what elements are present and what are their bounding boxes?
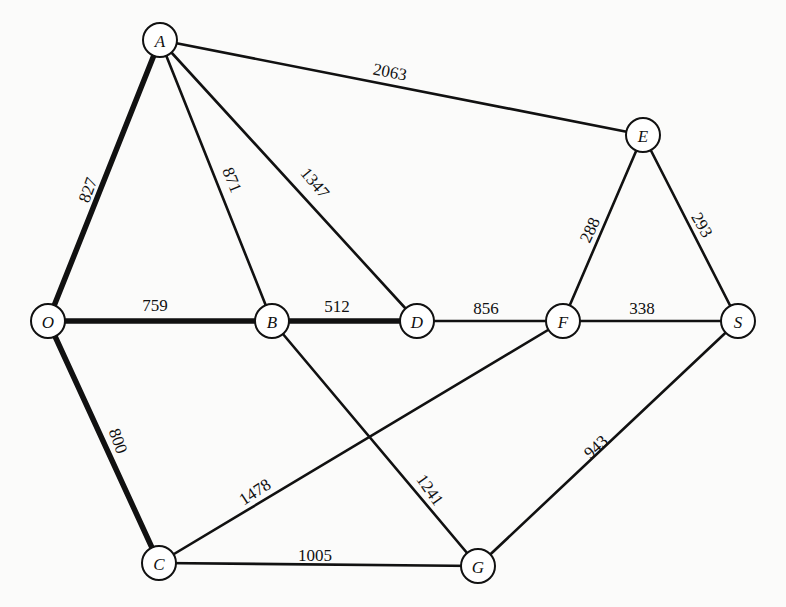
node-b: B	[255, 304, 289, 338]
edge-e-f	[563, 135, 643, 321]
node-label: B	[267, 313, 278, 332]
node-label: F	[557, 313, 569, 332]
edge-weight-label: 856	[473, 299, 499, 318]
node-label: D	[410, 313, 424, 332]
node-e: E	[626, 118, 660, 152]
node-a: A	[143, 23, 177, 57]
edge-weight-label: 293	[687, 209, 716, 241]
node-label: A	[154, 32, 166, 51]
node-label: S	[734, 313, 743, 332]
node-label: G	[472, 558, 484, 577]
node-g: G	[461, 549, 495, 583]
edge-b-g	[272, 321, 478, 566]
edge-o-c	[48, 321, 159, 563]
edge-o-a	[48, 40, 160, 321]
edge-a-b	[160, 40, 272, 321]
edge-weight-label: 943	[580, 431, 612, 462]
edge-weight-label: 512	[324, 297, 350, 316]
edge-e-s	[643, 135, 738, 321]
node-s: S	[721, 304, 755, 338]
node-label: O	[42, 313, 54, 332]
edge-weight-label: 288	[576, 214, 604, 245]
node-o: O	[31, 304, 65, 338]
node-f: F	[546, 304, 580, 338]
node-d: D	[400, 304, 434, 338]
edge-labels-layer: 8272063871134775951285633828829380014781…	[75, 59, 717, 564]
edge-weight-label: 759	[142, 296, 168, 315]
edge-c-f	[159, 321, 563, 563]
node-label: C	[153, 555, 165, 574]
node-label: E	[637, 127, 649, 146]
edge-weight-label: 1005	[298, 546, 332, 565]
node-c: C	[142, 546, 176, 580]
edge-weight-label: 338	[629, 299, 655, 318]
graph-diagram: 8272063871134775951285633828829380014781…	[0, 0, 786, 607]
edge-weight-label: 2063	[371, 59, 408, 84]
edge-weight-label: 1241	[412, 471, 447, 510]
edge-weight-label: 871	[218, 165, 245, 196]
